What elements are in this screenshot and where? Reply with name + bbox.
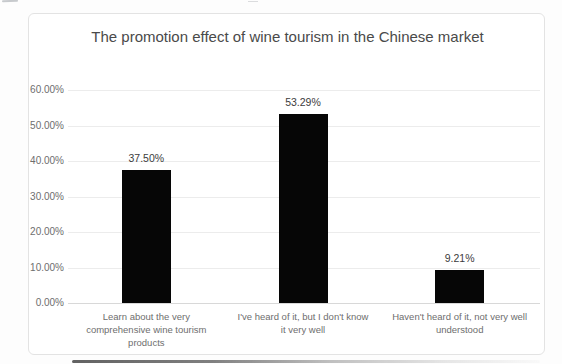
scan-artifact-line [72, 360, 540, 363]
page: The promotion effect of wine tourism in … [0, 0, 562, 364]
chart-title: The promotion effect of wine tourism in … [28, 26, 547, 47]
chart-frame [28, 13, 545, 355]
scan-artifact [2, 0, 18, 2]
scan-artifact [248, 1, 258, 2]
